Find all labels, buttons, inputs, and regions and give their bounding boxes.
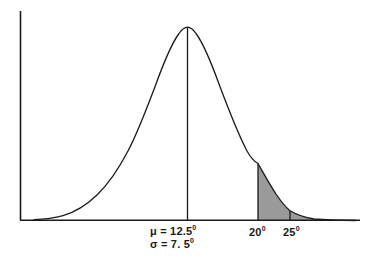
tick-20-text: 20 [249, 226, 262, 238]
mean-parameter-text: μ = 12.5 [150, 225, 192, 237]
sigma-parameter-label: σ = 7. 50 [150, 238, 196, 251]
mean-parameter-label: μ = 12.50 [150, 225, 196, 238]
normal-distribution-figure: μ = 12.50 σ = 7. 50 200 250 [0, 0, 369, 268]
sigma-parameter-text: σ = 7. 5 [150, 238, 190, 250]
degree-symbol-icon: 0 [296, 225, 300, 232]
degree-symbol-icon: 0 [192, 224, 196, 231]
tick-label-20: 200 [249, 226, 266, 239]
tick-25-text: 25 [283, 226, 296, 238]
tick-label-25: 250 [283, 226, 300, 239]
degree-symbol-icon: 0 [190, 237, 194, 244]
degree-symbol-icon: 0 [262, 225, 266, 232]
normal-curve [34, 27, 356, 220]
distribution-parameters: μ = 12.50 σ = 7. 50 [150, 225, 196, 251]
